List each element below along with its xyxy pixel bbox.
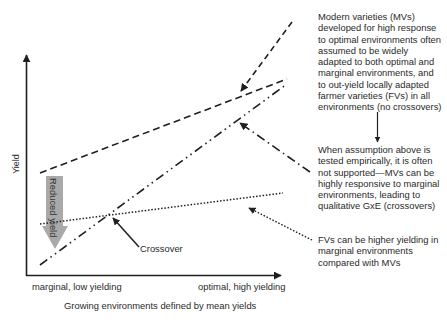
- note-line: qualitative GxE (crossovers): [318, 200, 446, 211]
- note-line: highly responsive to marginal: [318, 178, 446, 189]
- note-mv-assumption: Modern varieties (MVs) developed for hig…: [318, 11, 446, 113]
- y-axis-label: Yield: [11, 152, 21, 176]
- mv-assumption-pointer: [241, 22, 292, 91]
- x-axis-label: Growing environments defined by mean yie…: [64, 300, 256, 311]
- note-fv: FVs can be higher yielding in marginal e…: [318, 234, 446, 268]
- note-line: to out-yield locally adapted: [318, 79, 446, 90]
- note-line: developed for high response: [318, 22, 446, 33]
- note-line: FVs can be higher yielding in: [318, 234, 446, 245]
- note-line: When assumption above is: [318, 144, 446, 155]
- note-empirical-test: When assumption above is tested empirica…: [318, 144, 446, 212]
- note-line: marginal environments: [318, 245, 446, 256]
- note-line: compared with MVs: [318, 257, 446, 268]
- empirical-pointer: [240, 123, 310, 172]
- note-line: marginal environments, and: [318, 67, 446, 78]
- reduced-yield-label: Reduced yield: [48, 178, 59, 237]
- note-line: Modern varieties (MVs): [318, 11, 446, 22]
- note-line: tested empirically, it is often: [318, 155, 446, 166]
- fv-pointer: [249, 208, 312, 240]
- note-line: farmer varieties (FVs) in all: [318, 90, 446, 101]
- note-line: environments (no crossovers): [318, 101, 446, 112]
- note-line: environments, leading to: [318, 189, 446, 200]
- note-line: adapted to both optimal and: [318, 56, 446, 67]
- note-line: to optimal environments often: [318, 34, 446, 45]
- mv-empirical-line: [40, 84, 287, 265]
- crossover-label: Crossover: [140, 243, 183, 254]
- fv-line: [40, 193, 283, 224]
- x-tick-right: optimal, high yielding: [198, 281, 286, 292]
- mv-assumed-line: [40, 79, 287, 173]
- note-line: assumed to be widely: [318, 45, 446, 56]
- x-tick-left: marginal, low yielding: [32, 281, 122, 292]
- crossover-pointer: [113, 218, 139, 247]
- note-line: not supported—MVs can be: [318, 167, 446, 178]
